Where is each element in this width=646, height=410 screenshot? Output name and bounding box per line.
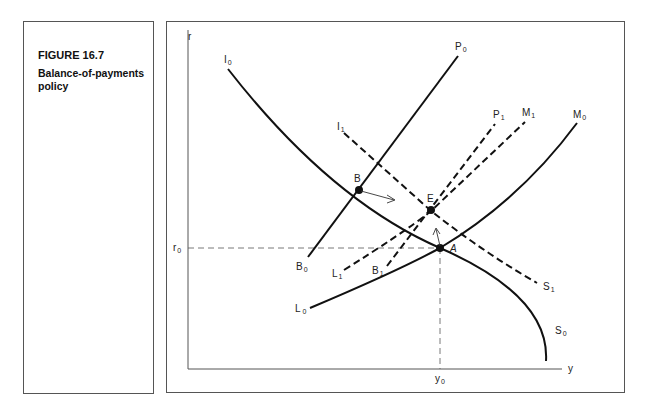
point-E — [427, 206, 435, 214]
y-axis-label: r — [188, 31, 192, 42]
curve-L0-M0 — [310, 123, 577, 308]
label-S0-text: S0 — [555, 325, 567, 337]
label-B1: B1 — [372, 265, 384, 277]
x-axis-label: y — [568, 363, 573, 374]
label-L0: L0 — [295, 303, 307, 315]
r0-label: r0 — [173, 242, 181, 254]
curve-I1-S1 — [344, 133, 537, 283]
label-A: A — [449, 243, 457, 254]
label-M1: M1 — [522, 107, 535, 119]
curve-B0-P0 — [308, 56, 458, 257]
label-L1: L1 — [332, 268, 343, 280]
label-P1: P1 — [493, 109, 505, 121]
y0-label: y0 — [435, 373, 445, 385]
arrow-B-shift — [361, 191, 394, 200]
label-P0: P0 — [455, 41, 467, 53]
label-S1: S1 — [543, 281, 555, 293]
label-B: B — [354, 173, 361, 184]
diagram: r y r0 y0 I0 S0 I1 S1 B0 P0 B1 P1 L1 M1 … — [0, 0, 646, 410]
label-M0: M0 — [573, 109, 586, 121]
label-I1: I1 — [337, 121, 345, 133]
label-E: E — [427, 193, 434, 204]
label-B0: B0 — [296, 261, 308, 273]
label-I0: I0 — [224, 54, 232, 66]
point-B — [355, 186, 363, 194]
